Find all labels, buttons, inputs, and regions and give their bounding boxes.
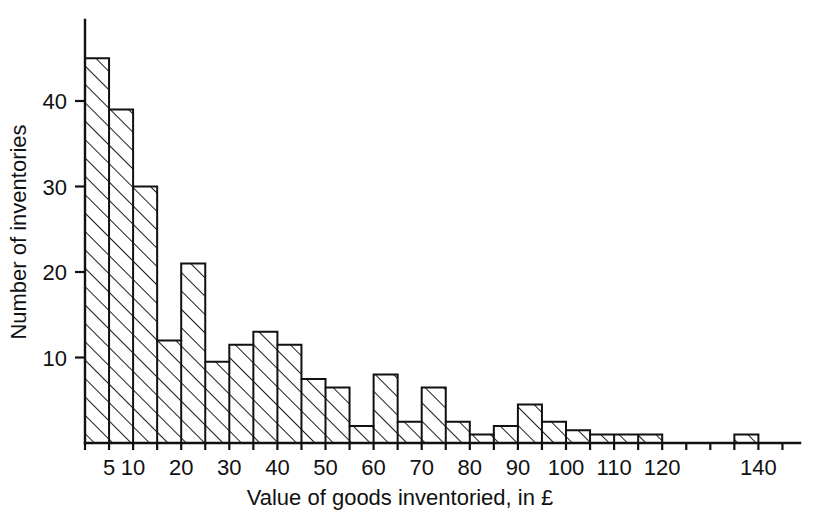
x-tick-label: 90 xyxy=(506,455,530,480)
histogram-bar-fill xyxy=(638,434,662,443)
histogram-bar-fill xyxy=(542,422,566,443)
histogram-bar-fill xyxy=(205,362,229,443)
histogram-bar-fill xyxy=(326,387,350,443)
histogram-bar-fill xyxy=(229,345,253,443)
bars-group xyxy=(85,58,758,443)
x-tick-label: 70 xyxy=(409,455,433,480)
histogram-bar-fill xyxy=(181,263,205,443)
y-tick-label: 20 xyxy=(43,260,67,285)
histogram-bar-fill xyxy=(494,426,518,443)
x-axis-title: Value of goods inventoried, in £ xyxy=(247,485,554,510)
x-tick-label: 10 xyxy=(121,455,145,480)
histogram-bar-fill xyxy=(350,426,374,443)
histogram-bar-fill xyxy=(590,434,614,443)
histogram-bar-fill xyxy=(470,434,494,443)
histogram-bar-fill xyxy=(734,434,758,443)
histogram-bar-fill xyxy=(614,434,638,443)
x-tick-label: 20 xyxy=(169,455,193,480)
histogram-bar-fill xyxy=(374,375,398,443)
y-axis-title: Number of inventories xyxy=(6,124,31,339)
y-tick-label: 30 xyxy=(43,175,67,200)
x-tick-label: 110 xyxy=(597,455,632,480)
x-tick-label: 140 xyxy=(740,455,777,480)
histogram-bar-fill xyxy=(85,58,109,443)
x-tick-label: 5 xyxy=(103,455,115,480)
y-tick-label: 40 xyxy=(43,89,67,114)
x-tick-label: 100 xyxy=(548,455,585,480)
histogram-bar-fill xyxy=(133,187,157,444)
histogram-bar-fill xyxy=(422,387,446,443)
histogram-canvas: 10203040 5102030405060708090100110120140… xyxy=(0,0,824,525)
x-tick-label: 120 xyxy=(644,455,681,480)
histogram-bar-fill xyxy=(157,340,181,443)
x-tick-label: 50 xyxy=(313,455,337,480)
histogram-bar-fill xyxy=(566,430,590,443)
histogram-bar-fill xyxy=(109,110,133,443)
x-tick-label: 40 xyxy=(265,455,289,480)
histogram-bar-fill xyxy=(277,345,301,443)
histogram-bar-fill xyxy=(446,422,470,443)
y-tick-label: 10 xyxy=(43,346,67,371)
histogram-figure: 10203040 5102030405060708090100110120140… xyxy=(0,0,824,525)
histogram-bar-fill xyxy=(301,379,325,443)
histogram-bar-fill xyxy=(398,422,422,443)
x-tick-labels: 5102030405060708090100110120140 xyxy=(103,455,777,480)
x-tick-label: 80 xyxy=(458,455,482,480)
x-tick-label: 30 xyxy=(217,455,241,480)
y-tick-labels: 10203040 xyxy=(43,89,67,371)
histogram-bar-fill xyxy=(253,332,277,443)
x-tick-label: 60 xyxy=(361,455,385,480)
histogram-bar-fill xyxy=(518,405,542,443)
y-ticks-group xyxy=(75,101,85,358)
